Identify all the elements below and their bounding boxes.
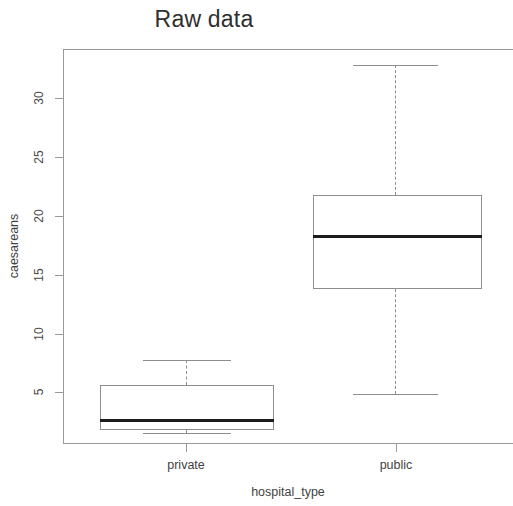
plot-panel: [63, 49, 513, 444]
y-tick-mark-20: [55, 216, 63, 217]
y-tick-label-25: 25: [28, 146, 50, 168]
y-tick-mark-5: [55, 392, 63, 393]
private-box: [100, 385, 274, 430]
public-upper-whisker-cap: [353, 65, 438, 66]
public-box: [313, 195, 482, 289]
chart-title: Raw data: [0, 6, 408, 33]
private-upper-whisker-cap: [143, 360, 231, 361]
x-tick-label-private: private: [126, 458, 246, 472]
y-tick-mark-15: [55, 275, 63, 276]
boxplot-figure: Raw data 30 25 20 15 10 5 caesareans: [0, 0, 513, 506]
x-tick-mark-public: [396, 444, 397, 452]
public-upper-whisker: [395, 65, 396, 195]
public-lower-whisker-cap: [353, 394, 438, 395]
y-tick-mark-25: [55, 157, 63, 158]
x-tick-label-public: public: [336, 458, 456, 472]
x-tick-mark-private: [186, 444, 187, 452]
x-axis-title: hospital_type: [63, 485, 513, 499]
y-tick-mark-30: [55, 98, 63, 99]
private-median-line: [100, 419, 274, 422]
y-tick-mark-10: [55, 334, 63, 335]
public-median-line: [313, 235, 482, 238]
y-tick-label-30: 30: [28, 87, 50, 109]
y-axis-title: caesareans: [4, 196, 24, 296]
private-upper-whisker: [186, 360, 187, 385]
y-tick-label-20: 20: [28, 205, 50, 227]
y-tick-label-5: 5: [28, 381, 50, 403]
y-tick-label-15: 15: [28, 264, 50, 286]
public-lower-whisker: [395, 289, 396, 394]
y-tick-label-10: 10: [28, 323, 50, 345]
private-lower-whisker-cap: [143, 433, 231, 434]
plot-area: [64, 50, 513, 443]
